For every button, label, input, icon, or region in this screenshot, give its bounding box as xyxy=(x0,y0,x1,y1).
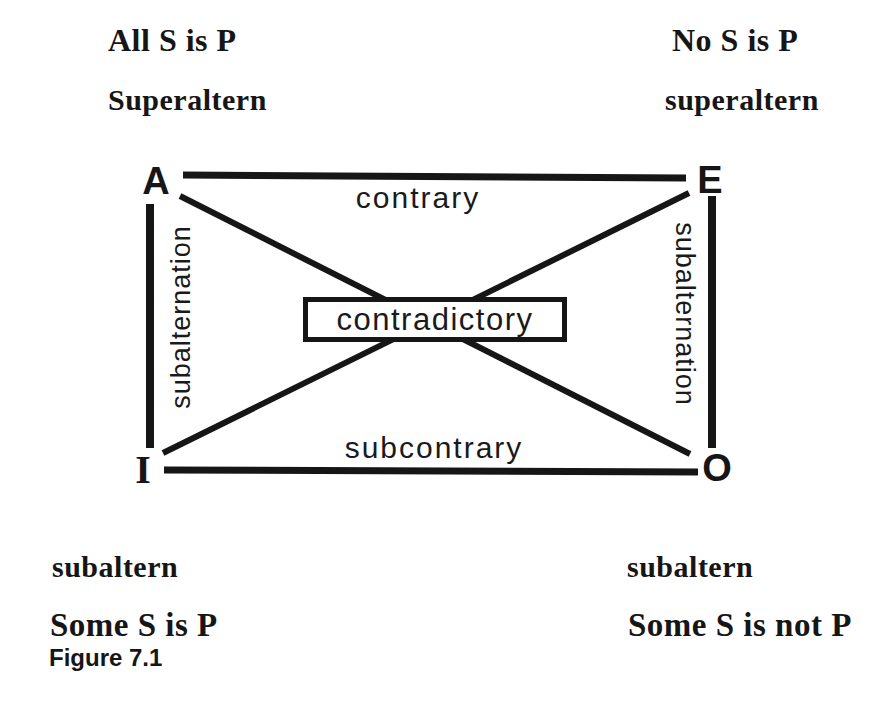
relation-label-o: subaltern xyxy=(627,550,753,584)
figure-caption: Figure 7.1 xyxy=(49,644,162,672)
contrary-label: contrary xyxy=(356,181,480,215)
square-of-opposition-figure: All S is P Superaltern No S is P superal… xyxy=(0,0,888,703)
subcontrary-label: subcontrary xyxy=(345,431,524,465)
contradictory-box: contradictory xyxy=(303,297,567,342)
relation-label-i: subaltern xyxy=(52,550,178,584)
subcontrary-edge-line xyxy=(164,470,698,472)
subalternation-label-left: subalternation xyxy=(166,225,197,409)
contrary-edge-line xyxy=(183,175,686,178)
square-of-opposition-lines xyxy=(0,0,888,703)
contradictory-label: contradictory xyxy=(337,302,534,338)
corner-letter-o: O xyxy=(702,447,732,490)
statement-o: Some S is not P xyxy=(628,607,852,644)
statement-i: Some S is P xyxy=(50,607,218,644)
corner-letter-e: E xyxy=(697,159,722,202)
corner-letter-i: I xyxy=(135,446,151,493)
subalternation-label-right: subalternation xyxy=(669,222,700,406)
corner-letter-a: A xyxy=(142,160,169,203)
